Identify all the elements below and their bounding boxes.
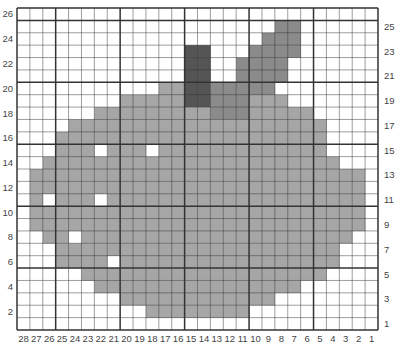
grid-cell [249, 45, 262, 58]
grid-cell [339, 206, 352, 219]
grid-cell [133, 181, 146, 194]
grid-cell [288, 268, 301, 281]
column-label: 5 [317, 333, 322, 344]
grid-cell [43, 206, 56, 219]
grid-cell [185, 45, 198, 58]
grid-cell [288, 119, 301, 132]
grid-cell [56, 132, 69, 145]
grid-cell [56, 181, 69, 194]
grid-cell [301, 157, 314, 170]
grid-cell [236, 280, 249, 293]
grid-cell [236, 119, 249, 132]
grid-cell [236, 293, 249, 306]
grid-cell [56, 256, 69, 269]
grid-cell [81, 132, 94, 145]
grid-cell [223, 107, 236, 120]
grid-cell [146, 181, 159, 194]
grid-cell [146, 119, 159, 132]
grid-cell [185, 305, 198, 318]
grid-cell [236, 157, 249, 170]
grid-cell [133, 280, 146, 293]
grid-cell [236, 132, 249, 145]
grid-cell [146, 256, 159, 269]
grid-cell [275, 157, 288, 170]
grid-cell [249, 231, 262, 244]
grid-cell [185, 206, 198, 219]
row-label: 9 [384, 219, 389, 230]
grid-cell [249, 219, 262, 232]
grid-cell [275, 119, 288, 132]
column-label: 1 [369, 333, 374, 344]
row-label: 22 [2, 58, 13, 69]
grid-cell [172, 268, 185, 281]
grid-cell [236, 70, 249, 83]
grid-cell [107, 219, 120, 232]
grid-cell [288, 243, 301, 256]
row-label: 23 [384, 46, 395, 57]
grid-cell [301, 268, 314, 281]
grid-cell [94, 157, 107, 170]
grid-cell [288, 144, 301, 157]
grid-cell [133, 119, 146, 132]
grid-cell [288, 231, 301, 244]
grid-cell [172, 231, 185, 244]
grid-cell [314, 194, 327, 207]
grid-cell [81, 119, 94, 132]
grid-cell [198, 194, 211, 207]
grid-cell [172, 293, 185, 306]
grid-cell [185, 293, 198, 306]
grid-cell [262, 82, 275, 95]
grid-cell [172, 119, 185, 132]
grid-cell [56, 206, 69, 219]
grid-cell [223, 169, 236, 182]
grid-cell [275, 268, 288, 281]
column-label: 2 [356, 333, 361, 344]
grid-cell [339, 231, 352, 244]
column-label: 28 [18, 333, 29, 344]
column-label: 16 [173, 333, 184, 344]
grid-cell [81, 231, 94, 244]
grid-cell [94, 256, 107, 269]
grid-cell [249, 70, 262, 83]
grid-cell [275, 45, 288, 58]
grid-cell [223, 280, 236, 293]
grid-cell [146, 132, 159, 145]
grid-cell [120, 268, 133, 281]
grid-cell [69, 206, 82, 219]
row-label: 4 [8, 281, 13, 292]
grid-cell [223, 157, 236, 170]
column-label: 14 [199, 333, 210, 344]
row-label: 5 [384, 269, 389, 280]
grid-cell [185, 107, 198, 120]
row-label: 7 [384, 244, 389, 255]
grid-cell [262, 119, 275, 132]
grid-cell [301, 107, 314, 120]
grid-cell [185, 194, 198, 207]
grid-cell [223, 231, 236, 244]
grid-cell [262, 169, 275, 182]
grid-cell [223, 119, 236, 132]
grid-cell [43, 157, 56, 170]
grid-cell [326, 256, 339, 269]
grid-cell [275, 58, 288, 71]
grid-cell [185, 144, 198, 157]
grid-cell [172, 280, 185, 293]
grid-cell [275, 132, 288, 145]
grid-cell [275, 194, 288, 207]
grid-cell [185, 119, 198, 132]
grid-cell [133, 144, 146, 157]
grid-cell [236, 181, 249, 194]
grid-cell [172, 107, 185, 120]
grid-cell [146, 280, 159, 293]
grid-cell [236, 194, 249, 207]
grid-cell [301, 206, 314, 219]
grid-cell [69, 243, 82, 256]
grid-cell [275, 181, 288, 194]
grid-cell [120, 157, 133, 170]
grid-cell [172, 82, 185, 95]
grid-cell [301, 243, 314, 256]
column-label: 19 [134, 333, 145, 344]
grid-cell [30, 169, 43, 182]
grid-cell [107, 268, 120, 281]
grid-cell [159, 194, 172, 207]
